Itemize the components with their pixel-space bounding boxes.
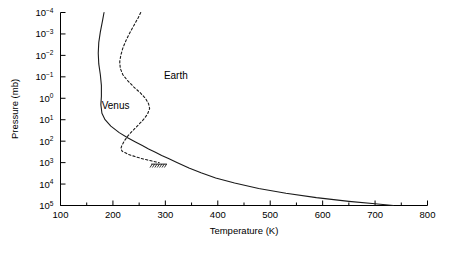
y-tick-label: 10−2 <box>35 49 53 60</box>
data-curves <box>98 13 393 206</box>
surface-hatch-stroke <box>155 164 157 167</box>
x-tick-label: 400 <box>210 209 226 220</box>
surface-hatch-stroke <box>150 164 152 167</box>
y-tick-label: 100 <box>39 92 54 103</box>
curve-annotations: VenusEarth <box>102 70 188 111</box>
y-tick-label: 10−1 <box>35 71 53 82</box>
y-tick-label: 102 <box>39 135 54 146</box>
y-axis-title: Pressure (mb) <box>9 79 20 139</box>
x-tick-label: 500 <box>262 209 278 220</box>
x-tick-label: 800 <box>420 209 436 220</box>
x-axis-tick-labels: 100200300400500600700800 <box>53 209 436 220</box>
curve-earth <box>120 13 159 163</box>
x-tick-label: 700 <box>367 209 383 220</box>
chart-canvas: 100200300400500600700800 10−410−310−210−… <box>0 0 475 255</box>
x-tick-label: 100 <box>53 209 69 220</box>
y-tick-label: 104 <box>39 178 54 189</box>
surface-hatch-stroke <box>164 164 166 167</box>
earth-curve-label: Earth <box>164 70 188 81</box>
y-tick-label: 103 <box>39 157 54 168</box>
x-axis-title: Temperature (K) <box>210 225 279 236</box>
surface-hatch-stroke <box>162 164 164 167</box>
y-tick-label: 101 <box>39 114 54 125</box>
surface-hatch-stroke <box>160 164 162 167</box>
x-tick-label: 300 <box>157 209 173 220</box>
x-tick-label: 200 <box>105 209 121 220</box>
venus-curve-label: Venus <box>102 100 130 111</box>
earth-surface-marker <box>150 164 167 167</box>
surface-hatch-stroke <box>157 164 159 167</box>
surface-hatch-stroke <box>152 164 154 167</box>
temperature-pressure-profile-figure: 100200300400500600700800 10−410−310−210−… <box>0 0 475 255</box>
y-tick-label: 10−3 <box>35 28 53 39</box>
y-axis-tick-labels: 10−410−310−210−1100101102103104105 <box>35 7 53 211</box>
y-tick-label: 10−4 <box>35 7 53 18</box>
curve-venus <box>98 13 393 206</box>
x-tick-label: 600 <box>315 209 331 220</box>
